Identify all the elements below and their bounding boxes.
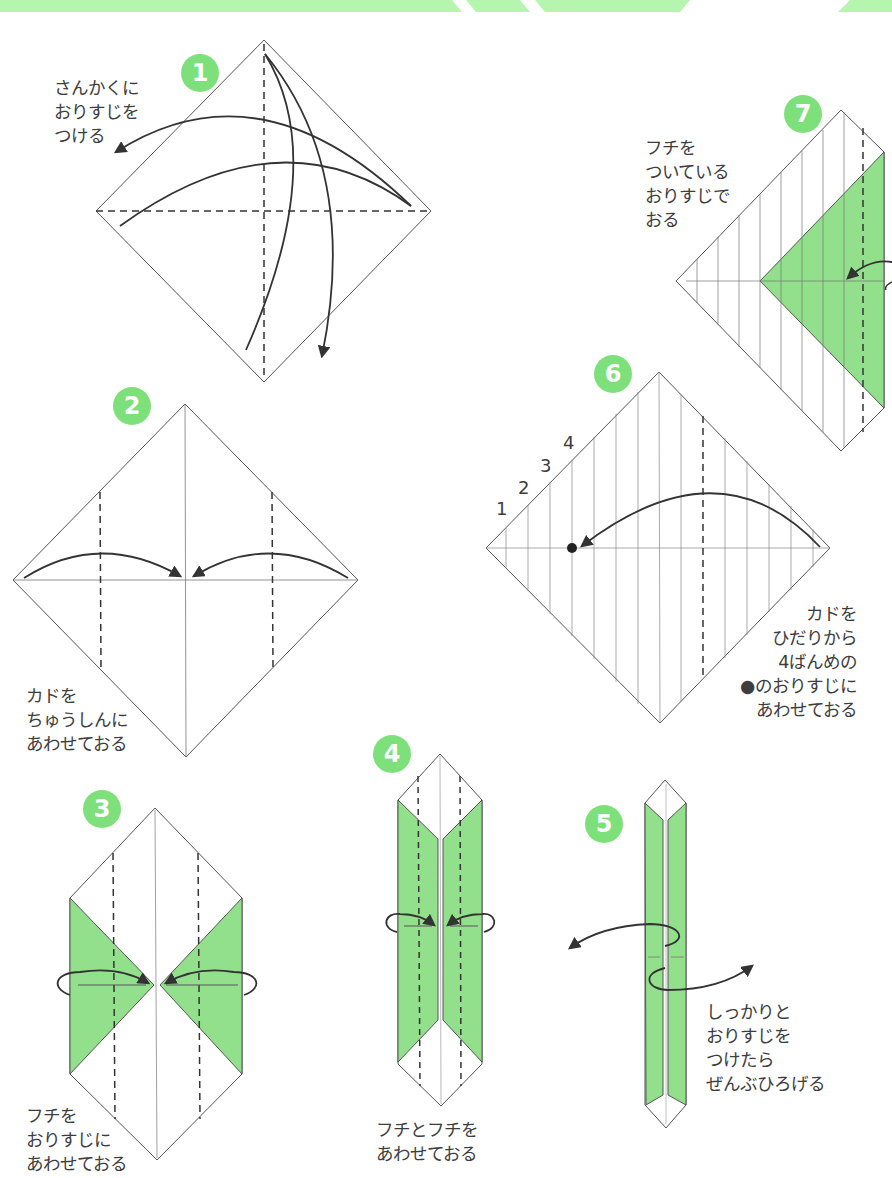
step-badge-5: 5 [585,805,623,843]
step-badge-6: 6 [594,355,632,393]
step-badge-4: 4 [373,735,411,773]
crease-number-1: 1 [496,498,507,519]
step-badge-1: 1 [181,54,219,92]
step-3-instruction: フチを おりすじに あわせておる [26,1104,127,1176]
step-1-diagram [96,40,431,382]
step-2-instruction: カドを ちゅうしんに あわせておる [26,684,128,756]
step-badge-3: 3 [83,790,121,828]
step-1-instruction: さんかくに おりすじを つける [54,76,139,148]
crease-number-2: 2 [518,477,529,498]
step-5-instruction: しっかりと おりすじを つけたら ぜんぶひろげる [706,1000,825,1096]
step-7-instruction: フチを ついている おりすじで おる [645,136,730,232]
step-6-instruction: カドを ひだりから 4ばんめの ●のおりすじに あわせておる [740,602,857,722]
step-4-instruction: フチとフチを あわせておる [376,1118,478,1166]
crease-number-3: 3 [540,455,551,476]
step-4-diagram [386,754,494,1106]
step-badge-2: 2 [113,387,151,425]
crease-number-4: 4 [563,432,574,453]
step-badge-7: 7 [784,95,822,133]
